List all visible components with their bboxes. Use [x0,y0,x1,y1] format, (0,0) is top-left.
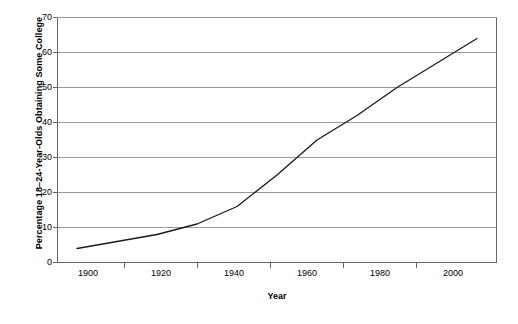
x-axis-tick-labels: 1900 1920 1940 1960 1980 2000 [0,268,518,282]
x-tick-label: 1960 [287,268,327,278]
x-tick-label: 1980 [360,268,400,278]
line-chart: Percentage 18–24-Year-Olds Obtaining Som… [0,0,518,324]
data-line-series [77,39,477,249]
y-axis-ticks [53,18,57,263]
gridlines [57,18,497,228]
x-tick-label: 1940 [214,268,254,278]
x-tick-label: 1900 [68,268,108,278]
x-axis-title: Year [57,291,497,301]
axis-spines [57,18,497,263]
x-tick-label: 2000 [433,268,473,278]
x-tick-label: 1920 [141,268,181,278]
